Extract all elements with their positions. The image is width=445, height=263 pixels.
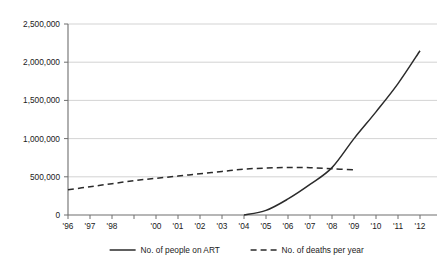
x-tick-label: '03 xyxy=(217,221,228,231)
data-series-group xyxy=(68,51,420,215)
series-line-0 xyxy=(244,51,420,215)
legend-label-0: No. of people on ART xyxy=(141,245,220,255)
x-tick-label: '01 xyxy=(173,221,184,231)
x-tick-marks-group xyxy=(68,215,420,219)
y-tick-label: 500,000 xyxy=(30,172,60,182)
x-tick-label: '02 xyxy=(195,221,206,231)
x-tick-label: '98 xyxy=(107,221,118,231)
legend-label-1: No. of deaths per year xyxy=(282,245,364,255)
y-tick-label: 2,500,000 xyxy=(23,19,60,29)
chart-figure: 0500,0001,000,0001,500,0002,000,0002,500… xyxy=(0,0,445,263)
y-tick-label: 2,000,000 xyxy=(23,57,60,67)
y-tick-label: 0 xyxy=(55,210,60,220)
x-tick-label: '96 xyxy=(63,221,74,231)
x-axis-tick-labels: '96'97'98'00'01'02'03'04'05'06'07'08'09'… xyxy=(63,221,426,231)
y-tick-label: 1,500,000 xyxy=(23,95,60,105)
x-tick-label: '08 xyxy=(327,221,338,231)
x-tick-label: '12 xyxy=(415,221,426,231)
x-tick-label: '04 xyxy=(239,221,250,231)
series-line-1 xyxy=(68,167,354,189)
x-tick-label: '06 xyxy=(283,221,294,231)
x-tick-label: '09 xyxy=(349,221,360,231)
x-tick-label: '11 xyxy=(393,221,404,231)
x-tick-label: '00 xyxy=(151,221,162,231)
y-tick-label: 1,000,000 xyxy=(23,134,60,144)
line-chart: 0500,0001,000,0001,500,0002,000,0002,500… xyxy=(0,0,445,263)
x-tick-label: '97 xyxy=(85,221,96,231)
x-tick-label: '07 xyxy=(305,221,316,231)
gridlines-group xyxy=(68,24,437,177)
y-axis-tick-labels: 0500,0001,000,0001,500,0002,000,0002,500… xyxy=(23,19,60,220)
x-tick-label: '05 xyxy=(261,221,272,231)
chart-legend: No. of people on ARTNo. of deaths per ye… xyxy=(110,245,364,255)
y-tick-marks-group xyxy=(64,24,68,215)
x-tick-label: '10 xyxy=(371,221,382,231)
